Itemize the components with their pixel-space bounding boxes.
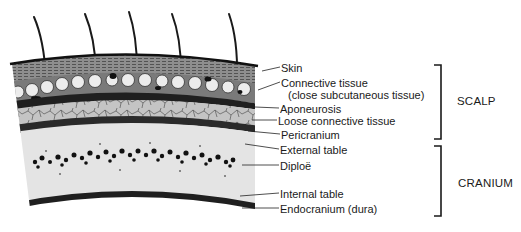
scalp-cranium-diagram [0,0,521,232]
scalp-bracket [434,65,441,139]
label-pericranium: Pericranium [281,129,340,141]
group-label-scalp: SCALP [457,95,496,107]
cranium-bracket [434,146,441,216]
label-aponeurosis: Aponeurosis [280,103,341,115]
group-label-cranium: CRANIUM [458,177,513,189]
label-external-table: External table [280,144,347,156]
label-connective-tissue-sub: (close subcutaneous tissue) [288,89,424,101]
label-loose-connective-tissue: Loose connective tissue [278,115,395,127]
label-connective-tissue: Connective tissue [281,77,368,89]
label-diploe: Diploë [280,160,311,172]
label-skin: Skin [281,62,302,74]
label-internal-table: Internal table [280,188,344,200]
label-endocranium: Endocranium (dura) [280,203,377,215]
